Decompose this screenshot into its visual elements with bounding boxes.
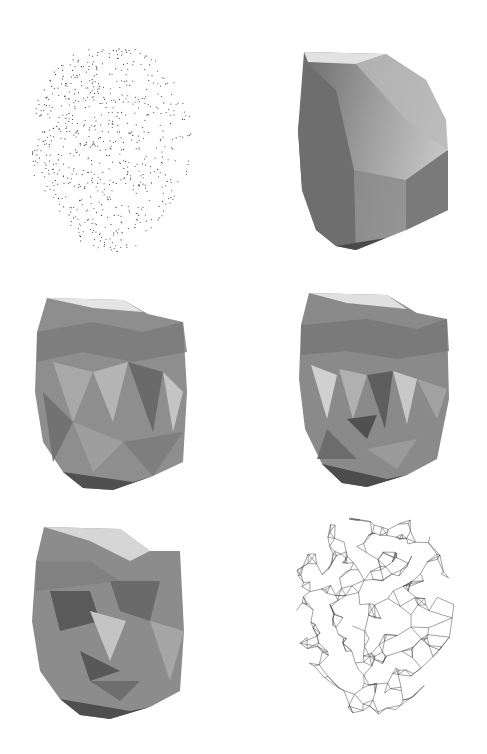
mesh-wireframe-panel: [292, 514, 462, 720]
convex-hull-panel: [296, 50, 456, 250]
mesh-stage-1-panel: [33, 292, 189, 492]
point-cloud-panel: [32, 48, 197, 252]
mesh-stage-2-panel: [297, 289, 455, 489]
mesh-stage-1-graphic: [33, 292, 189, 492]
point-cloud-graphic: [32, 48, 197, 252]
mesh-refined-panel: [30, 521, 186, 720]
mesh-wireframe-graphic: [292, 514, 462, 720]
convex-hull-graphic: [296, 50, 456, 250]
mesh-stage-2-graphic: [297, 289, 455, 489]
mesh-refined-graphic: [30, 521, 186, 720]
